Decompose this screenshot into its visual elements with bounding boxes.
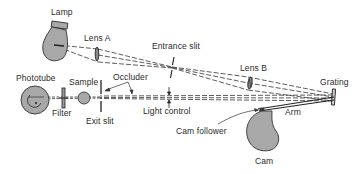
lens-a-icon bbox=[95, 47, 99, 61]
phototube-icon bbox=[21, 86, 49, 114]
label-exit-slit: Exit slit bbox=[86, 117, 114, 126]
label-light-control: Light control bbox=[143, 107, 191, 116]
lamp-bulb-icon bbox=[43, 21, 68, 61]
light-beam-paths bbox=[30, 45, 333, 101]
cam-icon bbox=[247, 111, 279, 151]
spectrophotometer-diagram: Lamp Lens A Entrance slit Lens B Grating… bbox=[0, 0, 364, 174]
label-lens-a: Lens A bbox=[84, 34, 111, 43]
label-lens-b: Lens B bbox=[240, 64, 267, 73]
label-sample: Sample bbox=[69, 78, 98, 87]
label-entrance-slit: Entrance slit bbox=[152, 42, 200, 51]
occluder-leaders bbox=[105, 82, 133, 94]
label-grating: Grating bbox=[320, 78, 349, 87]
label-arm: Arm bbox=[285, 108, 301, 117]
label-occluder: Occluder bbox=[113, 73, 148, 82]
label-phototube: Phototube bbox=[16, 74, 56, 83]
label-cam: Cam bbox=[255, 157, 273, 166]
label-filter: Filter bbox=[52, 109, 72, 118]
label-lamp: Lamp bbox=[51, 8, 73, 17]
optical-path-drawing bbox=[0, 0, 364, 174]
filter-icon bbox=[59, 88, 68, 108]
sample-cuvette-icon bbox=[78, 92, 90, 104]
lens-b-icon bbox=[247, 77, 253, 89]
label-cam-follower: Cam follower bbox=[176, 127, 227, 136]
